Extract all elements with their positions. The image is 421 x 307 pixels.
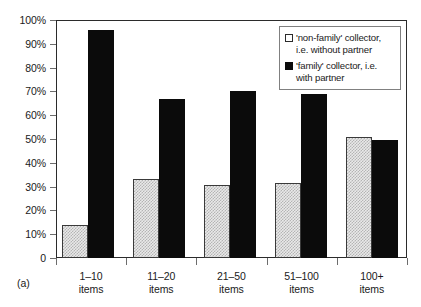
legend-label-non-family-line2: i.e. without partner <box>296 44 372 55</box>
x-axis-label-100-plus-line1: 100+ <box>337 270 407 283</box>
x-axis-label-11-20-line1: 11–20 <box>126 270 196 283</box>
bar-family-11-20 <box>159 99 185 258</box>
x-tick-2 <box>196 258 197 265</box>
x-axis-label-51-100-line1: 51–100 <box>267 270 337 283</box>
bar-family-100-plus <box>372 140 398 258</box>
bar-non-family-11-20 <box>133 179 159 258</box>
x-axis-label-11-20-line2: items <box>126 283 196 296</box>
bar-non-family-1-10 <box>62 225 88 258</box>
x-axis-label-51-100: 51–100 items <box>267 270 337 296</box>
x-tick-1 <box>126 258 127 265</box>
x-tick-4 <box>337 258 338 265</box>
figure-label: (a) <box>17 277 30 289</box>
bar-family-51-100 <box>301 94 327 258</box>
x-axis-label-100-plus-line2: items <box>337 283 407 296</box>
legend-label-non-family-line1: 'non-family' collector, <box>296 32 381 43</box>
x-axis-label-1-10-line2: items <box>56 283 126 296</box>
x-axis-label-21-50: 21–50 items <box>196 270 266 296</box>
x-axis-label-1-10-line1: 1–10 <box>56 270 126 283</box>
legend-label-family-line1: 'family' collector, i.e. <box>296 60 377 71</box>
legend-label-non-family: 'non-family' collector, i.e. without par… <box>296 32 381 55</box>
legend-item-non-family: 'non-family' collector, i.e. without par… <box>285 32 396 55</box>
bar-non-family-51-100 <box>275 183 301 258</box>
bar-non-family-21-50 <box>204 185 230 258</box>
legend: 'non-family' collector, i.e. without par… <box>279 26 401 90</box>
bar-family-21-50 <box>230 91 256 258</box>
legend-swatch-non-family-icon <box>285 34 293 42</box>
x-axis-label-11-20: 11–20 items <box>126 270 196 296</box>
x-axis-label-1-10: 1–10 items <box>56 270 126 296</box>
x-tick-end <box>407 258 408 265</box>
legend-item-family: 'family' collector, i.e. with partner <box>285 60 396 83</box>
x-tick-3 <box>267 258 268 265</box>
bar-chart: 100% 90% 80% 70% 60% 50% 40% 30% 20% 10%… <box>0 0 421 307</box>
x-axis-label-51-100-line2: items <box>267 283 337 296</box>
x-axis-label-21-50-line2: items <box>196 283 266 296</box>
bar-family-1-10 <box>88 30 114 258</box>
legend-label-family: 'family' collector, i.e. with partner <box>296 60 377 83</box>
x-tick-start <box>56 258 57 265</box>
x-axis-label-100-plus: 100+ items <box>337 270 407 296</box>
legend-swatch-family-icon <box>285 62 293 70</box>
legend-label-family-line2: with partner <box>296 72 344 83</box>
x-axis-label-21-50-line1: 21–50 <box>196 270 266 283</box>
bar-non-family-100-plus <box>346 137 372 258</box>
